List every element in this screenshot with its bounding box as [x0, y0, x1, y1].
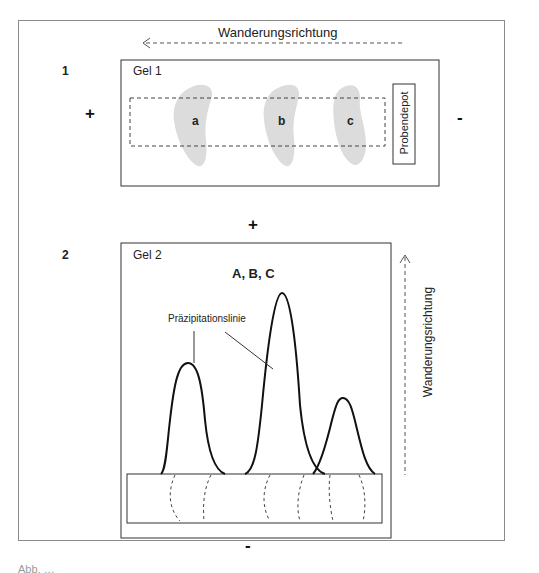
panel1-anode-sign: + — [85, 104, 95, 124]
precipitation-line-label: Präzipitationslinie — [168, 313, 246, 324]
peak-c — [313, 398, 375, 474]
panel1-cathode-sign: - — [457, 108, 463, 128]
panel2-number: 2 — [62, 248, 69, 262]
label-leader-lines — [194, 331, 273, 369]
gel2-label: Gel 2 — [133, 248, 162, 262]
spot-b-label: b — [278, 114, 285, 128]
gel1-label: Gel 1 — [133, 64, 162, 78]
first-dimension-strip — [127, 474, 382, 523]
peak-a — [161, 363, 225, 474]
protein-spots — [174, 85, 366, 167]
panel2-top-sign: + — [248, 215, 258, 235]
peak-b — [245, 293, 325, 474]
antibodies-label: A, B, C — [232, 266, 275, 281]
sample-depot-label: Probendepot — [398, 85, 410, 161]
panel2-direction-label: Wanderungsrichtung — [421, 282, 435, 402]
panel1-number: 1 — [62, 64, 69, 78]
spot-a-label: a — [192, 114, 199, 128]
diagram-graphics — [0, 0, 539, 573]
migration-arrow-up-icon — [400, 255, 410, 475]
panel2-bottom-sign: - — [245, 536, 251, 556]
panel1-direction-label: Wanderungsrichtung — [218, 25, 337, 40]
spot-c-label: c — [347, 114, 354, 128]
figure-caption: Abb. … — [18, 563, 55, 573]
